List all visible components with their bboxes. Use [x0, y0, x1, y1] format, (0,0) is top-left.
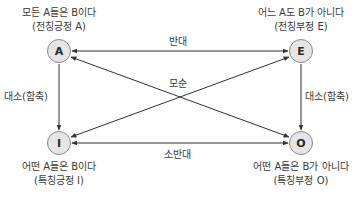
node-a-name: (전칭긍정 A): [22, 20, 96, 34]
contradiction-label: 모순: [169, 78, 187, 90]
node-o-statement: 어떤 A들은 B가 아니다: [253, 160, 348, 174]
node-e: E: [289, 39, 313, 63]
node-o-caption: 어떤 A들은 B가 아니다 (특칭부정 O): [253, 160, 348, 188]
node-a-statement: 모든 A들은 B이다: [22, 6, 96, 20]
node-a-caption: 모든 A들은 B이다 (전칭긍정 A): [22, 6, 96, 34]
node-e-letter: E: [297, 45, 305, 58]
node-a-letter: A: [55, 45, 64, 58]
node-e-caption: 어느 A도 B가 아니다 (전칭부정 E): [258, 6, 344, 34]
node-o: O: [289, 131, 313, 155]
node-i-statement: 어떤 A들은 B이다: [22, 160, 96, 174]
contrary-label: 반대: [169, 36, 187, 48]
node-o-letter: O: [296, 137, 305, 150]
node-o-name: (특칭부정 O): [253, 174, 348, 188]
node-i: I: [47, 131, 71, 155]
node-i-caption: 어떤 A들은 B이다 (특칭긍정 I): [22, 160, 96, 188]
node-e-statement: 어느 A도 B가 아니다: [258, 6, 344, 20]
subalternation-right-label: 대소(함축): [305, 91, 349, 103]
subalternation-left-label: 대소(함축): [4, 91, 48, 103]
node-i-name: (특칭긍정 I): [22, 174, 96, 188]
node-i-letter: I: [57, 137, 61, 150]
subcontrary-label: 소반대: [164, 149, 191, 161]
node-a: A: [47, 39, 71, 63]
node-e-name: (전칭부정 E): [258, 20, 344, 34]
